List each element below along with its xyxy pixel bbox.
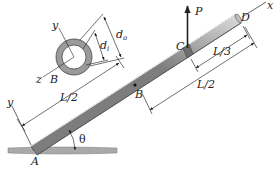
label-B: B (134, 88, 143, 101)
label-P: P (194, 5, 203, 18)
do-sub: o (123, 34, 127, 42)
label-theta: θ (79, 133, 86, 146)
di-sub: i (107, 45, 109, 53)
cs-label-y: y (51, 19, 59, 32)
point-B (133, 83, 136, 86)
label-L-third: L/3 (212, 45, 231, 58)
cs-label-B: B (49, 73, 58, 86)
label-D: D (240, 11, 250, 24)
label-C: C (176, 40, 185, 53)
bar-diagram: y x P C D B A θ L/2 L/2 (0, 0, 277, 179)
x-axis-label: x (267, 0, 274, 12)
cs-label-do: do (116, 28, 127, 42)
do-main: d (116, 28, 123, 41)
label-L-half-left: L/2 (59, 91, 78, 104)
ground-support (8, 147, 117, 154)
y-axis-label: y (6, 96, 14, 109)
label-A: A (30, 155, 39, 168)
label-L-half-right: L/2 (196, 78, 215, 91)
cs-label-di: di (100, 39, 109, 53)
di-main: d (100, 39, 107, 52)
cs-label-z: z (35, 73, 42, 86)
